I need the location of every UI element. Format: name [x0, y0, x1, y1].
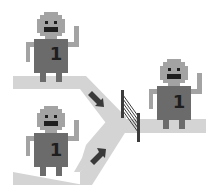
- robot-top-left: 1: [26, 12, 79, 82]
- robot-right-label: 1: [173, 91, 186, 112]
- robot-top-left-label: 1: [50, 43, 63, 64]
- robot-right: 1: [149, 59, 202, 129]
- robot-bottom-left: 1: [26, 106, 79, 176]
- diagram-canvas: 1 1 1: [0, 0, 220, 188]
- robot-bottom-left-label: 1: [50, 139, 63, 160]
